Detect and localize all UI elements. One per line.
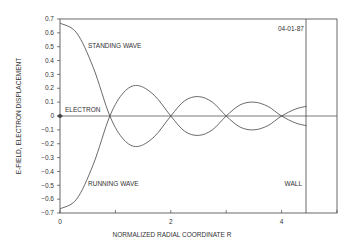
wall-label: WALL [285, 180, 303, 187]
svg-text:0.7: 0.7 [45, 15, 54, 22]
chart: 0.70.60.50.40.30.20.10−0.1−0.2−0.3−0.4−0… [0, 0, 354, 252]
svg-text:2: 2 [169, 218, 173, 225]
svg-text:0.3: 0.3 [45, 71, 54, 78]
running-wave-label: RUNNING WAVE [88, 180, 139, 187]
svg-text:−0.2: −0.2 [41, 140, 54, 147]
svg-text:0.1: 0.1 [45, 98, 54, 105]
svg-text:0.6: 0.6 [45, 29, 54, 36]
svg-text:−0.1: −0.1 [41, 126, 54, 133]
svg-text:−0.6: −0.6 [41, 195, 54, 202]
running-wave-curve [60, 85, 307, 208]
svg-text:−0.4: −0.4 [41, 168, 54, 175]
y-axis-label: E-FIELD, ELECTRON DISPLACEMENT [15, 58, 22, 174]
x-axis: 024 [58, 210, 337, 225]
svg-text:0: 0 [58, 218, 62, 225]
standing-wave-label: STANDING WAVE [88, 42, 142, 49]
svg-text:−0.3: −0.3 [41, 154, 54, 161]
svg-text:0.2: 0.2 [45, 84, 54, 91]
electron-label: ELECTRON [65, 106, 101, 113]
svg-text:0: 0 [50, 112, 54, 119]
svg-text:4: 4 [280, 218, 284, 225]
svg-text:−0.7: −0.7 [41, 209, 54, 216]
svg-text:0.4: 0.4 [45, 57, 54, 64]
x-axis-label: NORMALIZED RADIAL COORDINATE R [113, 231, 232, 238]
svg-text:−0.5: −0.5 [41, 182, 54, 189]
date-stamp: 04-01-87 [278, 25, 304, 32]
svg-text:0.5: 0.5 [45, 43, 54, 50]
